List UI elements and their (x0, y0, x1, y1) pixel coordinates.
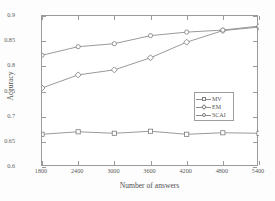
data-point-marker (221, 131, 225, 135)
y-tick (42, 92, 46, 93)
x-tick-label: 3000 (98, 168, 128, 174)
data-point-marker (42, 85, 45, 91)
y-tick-label: 0.7 (0, 113, 15, 119)
x-tick (187, 16, 188, 20)
y-tick (253, 66, 257, 67)
legend-item-mv: MV (195, 95, 233, 103)
x-tick (151, 161, 152, 165)
data-point-marker (257, 24, 259, 28)
y-tick (253, 16, 257, 17)
data-point-marker (221, 28, 225, 32)
x-tick-label: 4800 (207, 168, 237, 174)
x-tick-label: 4200 (171, 168, 201, 174)
data-point-marker (111, 67, 117, 73)
data-point-marker (76, 45, 80, 49)
x-tick (114, 16, 115, 20)
legend-item-em: EM (195, 103, 233, 111)
x-tick (78, 16, 79, 20)
data-point-marker (185, 30, 189, 34)
x-tick-label: 5400 (243, 168, 273, 174)
data-point-marker (42, 53, 44, 57)
x-tick (223, 16, 224, 20)
y-tick-label: 0.8 (0, 62, 15, 68)
legend-label: SCAI (212, 112, 226, 118)
legend-marker-diamond-icon (195, 103, 212, 111)
x-tick (42, 16, 43, 20)
chart-legend: MV EM SCAI (194, 92, 234, 121)
x-tick (114, 161, 115, 165)
y-tick (253, 92, 257, 93)
data-point-marker (75, 72, 81, 78)
series-scai (42, 24, 259, 57)
data-point-marker (148, 34, 152, 38)
data-point-marker (148, 129, 152, 133)
data-point-marker (42, 132, 44, 136)
x-tick-label: 2400 (62, 168, 92, 174)
x-tick (78, 161, 79, 165)
y-tick-label: 0.85 (0, 37, 15, 43)
x-tick (187, 161, 188, 165)
series-mv (42, 129, 259, 136)
legend-label: EM (212, 104, 221, 110)
data-point-marker (112, 42, 116, 46)
x-axis-title: Number of answers (41, 182, 258, 190)
x-tick-label: 1800 (26, 168, 56, 174)
y-tick (42, 142, 46, 143)
y-tick (42, 41, 46, 42)
y-tick (42, 66, 46, 67)
legend-marker-circle-icon (195, 111, 212, 119)
data-point-marker (148, 55, 154, 61)
data-point-marker (184, 39, 190, 45)
y-tick (42, 117, 46, 118)
x-tick (151, 16, 152, 20)
x-tick (259, 161, 260, 165)
y-tick-label: 0.9 (0, 12, 15, 18)
x-tick (42, 161, 43, 165)
data-point-marker (257, 131, 259, 135)
chart-figure: Accuracy Number of answers MV EM SCAI 0.… (0, 0, 275, 201)
plot-area (41, 15, 258, 166)
x-tick (259, 16, 260, 20)
y-tick (253, 117, 257, 118)
data-point-marker (112, 131, 116, 135)
y-tick (253, 41, 257, 42)
x-tick (223, 161, 224, 165)
y-tick-label: 0.75 (0, 88, 15, 94)
y-tick (253, 142, 257, 143)
data-point-marker (185, 132, 189, 136)
legend-marker-square-icon (195, 95, 212, 103)
x-tick-label: 3600 (135, 168, 165, 174)
y-tick-label: 0.6 (0, 163, 15, 169)
legend-label: MV (212, 96, 222, 102)
legend-item-scai: SCAI (195, 111, 233, 119)
y-tick-label: 0.65 (0, 138, 15, 144)
data-point-marker (76, 130, 80, 134)
